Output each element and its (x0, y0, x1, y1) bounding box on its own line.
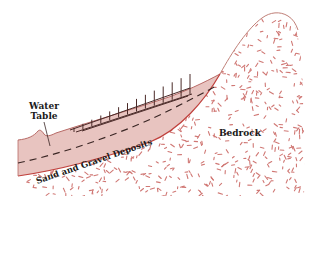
water-table-label: Water (28, 101, 59, 111)
bedrock-label: Bedrock (219, 128, 262, 138)
geologic-cross-section: Water Table Bedrock Sand and Gravel Depo… (0, 0, 317, 253)
water-table-label-line2: Table (30, 111, 57, 121)
